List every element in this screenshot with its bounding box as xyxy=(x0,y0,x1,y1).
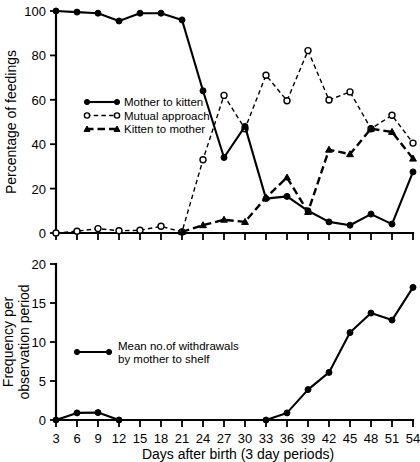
chart-svg: 100 80 60 40 20 0 Percentage of feedings xyxy=(0,0,420,462)
mean-withdrawals-line-late xyxy=(266,287,413,420)
x-tick-label: 21 xyxy=(175,431,189,446)
legend-label-mean-withdrawals-line2: by mother to shelf xyxy=(118,353,210,365)
legend-label-mutual-approach: Mutual approach xyxy=(124,110,210,122)
x-tick-label: 48 xyxy=(364,431,378,446)
top-y-tick-label: 60 xyxy=(32,93,46,108)
bottom-y-axis-title-line1: Frequency per xyxy=(0,297,16,388)
kitten-to-mother-line xyxy=(182,129,413,232)
bottom-y-tick-labels: 20 15 10 5 0 xyxy=(32,257,46,428)
legend-label-kitten-to-mother: Kitten to mother xyxy=(124,123,205,135)
legend-entry-mother-to-kitten: Mother to kitten xyxy=(84,96,203,108)
top-y-tick-label: 40 xyxy=(32,137,46,152)
x-tick-label: 45 xyxy=(343,431,357,446)
x-tick-label: 6 xyxy=(73,431,80,446)
x-tick-label: 33 xyxy=(259,431,273,446)
bottom-y-tick-label: 10 xyxy=(32,335,46,350)
x-tick-label: 39 xyxy=(301,431,315,446)
x-tick-labels: 3 6 9 12 15 18 21 24 27 30 33 36 39 42 4… xyxy=(52,431,420,446)
top-y-tick-label: 100 xyxy=(24,4,46,19)
bottom-y-axis-title-line2: observation period xyxy=(16,284,32,399)
top-y-tick-label: 20 xyxy=(32,182,46,197)
x-tick-label: 36 xyxy=(280,431,294,446)
x-axis-title: Days after birth (3 day periods) xyxy=(142,446,334,462)
figure-container: 100 80 60 40 20 0 Percentage of feedings xyxy=(0,0,420,462)
x-tick-label: 54 xyxy=(406,431,420,446)
bottom-y-tick-label: 20 xyxy=(32,257,46,272)
mother-to-kitten-line xyxy=(56,11,413,225)
mother-to-kitten-markers xyxy=(53,8,416,228)
x-tick-label: 12 xyxy=(112,431,126,446)
x-tick-label: 51 xyxy=(385,431,399,446)
x-tick-label: 24 xyxy=(196,431,210,446)
bottom-y-tick-label: 0 xyxy=(39,413,46,428)
top-y-axis-title: Percentage of feedings xyxy=(3,50,19,194)
top-panel: 100 80 60 40 20 0 Percentage of feedings xyxy=(3,4,416,241)
x-tick-label: 30 xyxy=(238,431,252,446)
top-y-tick-labels: 100 80 60 40 20 0 xyxy=(24,4,46,241)
legend-entry-mean-withdrawals: Mean no.of withdrawals by mother to shel… xyxy=(74,340,239,365)
bottom-panel: 20 15 10 5 0 Frequency per observation p… xyxy=(0,257,420,462)
top-y-tick-label: 0 xyxy=(39,226,46,241)
x-tick-label: 42 xyxy=(322,431,336,446)
bottom-y-axis-title: Frequency per observation period xyxy=(0,284,32,399)
bottom-y-tick-label: 5 xyxy=(39,374,46,389)
legend-entry-kitten-to-mother: Kitten to mother xyxy=(84,123,205,135)
series-mother-to-kitten xyxy=(53,8,416,228)
x-tick-label: 27 xyxy=(217,431,231,446)
legend-entry-mutual-approach: Mutual approach xyxy=(84,110,209,122)
legend-label-mother-to-kitten: Mother to kitten xyxy=(124,96,203,108)
x-tick-label: 3 xyxy=(52,431,59,446)
x-tick-label: 18 xyxy=(154,431,168,446)
top-legend: Mother to kitten Mutual approach Kitten … xyxy=(84,96,210,135)
mean-withdrawals-line-early xyxy=(56,413,119,420)
top-y-tick-label: 80 xyxy=(32,48,46,63)
x-tick-label: 9 xyxy=(94,431,101,446)
legend-label-mean-withdrawals-line1: Mean no.of withdrawals xyxy=(118,340,239,352)
bottom-legend: Mean no.of withdrawals by mother to shel… xyxy=(74,340,239,365)
bottom-y-tick-label: 15 xyxy=(32,296,46,311)
x-tick-label: 15 xyxy=(133,431,147,446)
